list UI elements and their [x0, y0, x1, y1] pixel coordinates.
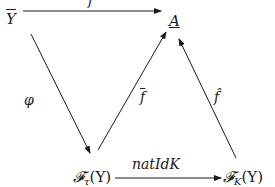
- arrow-phi: [31, 34, 90, 153]
- arrow-f-bar: [98, 32, 166, 150]
- label-f-hat: f̂: [214, 90, 219, 104]
- label-f: f: [88, 0, 93, 7]
- label-f-hat-text: f̂: [214, 89, 219, 105]
- label-f-bar: f: [140, 90, 145, 104]
- label-phi-text: φ: [24, 92, 34, 108]
- label-natidk: natIdK: [132, 157, 180, 171]
- arrow-f-hat: [179, 39, 236, 158]
- node-a-underline: A: [169, 14, 180, 29]
- label-f-bar-text: f: [140, 89, 145, 105]
- node-f-k-y: 𝓕K(Y): [223, 170, 263, 187]
- label-natidk-text: natIdK: [132, 156, 180, 172]
- label-f-text: f: [88, 0, 93, 8]
- node-y-bar: Y: [6, 12, 16, 27]
- node-a-symbol: A: [169, 12, 180, 30]
- node-f-k-script: 𝓕: [223, 168, 234, 186]
- node-y-bar-symbol: Y: [6, 10, 16, 28]
- node-f-tau-script: 𝓕: [73, 168, 84, 186]
- node-f-tau-arg: (Y): [90, 168, 112, 186]
- node-f-k-arg: (Y): [241, 168, 263, 186]
- node-f-tau-y: 𝓕τ(Y): [73, 170, 111, 187]
- label-phi: φ: [24, 93, 34, 107]
